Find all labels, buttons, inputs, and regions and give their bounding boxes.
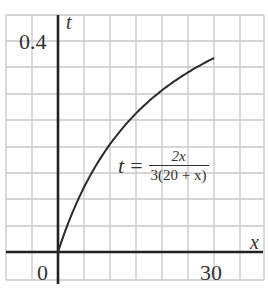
equation-fraction: 2x 3(20 + x) [149, 148, 209, 184]
equation-numerator: 2x [167, 148, 189, 165]
x-tick-label-30: 30 [200, 262, 222, 284]
y-tick-label: 0.4 [19, 31, 47, 53]
y-axis-label: t [66, 12, 72, 32]
x-axis-label: x [250, 232, 259, 252]
equation-lhs: t [118, 153, 124, 179]
equation-denominator: 3(20 + x) [149, 165, 209, 184]
curve-equation: t = 2x 3(20 + x) [118, 148, 209, 184]
x-tick-label-0: 0 [37, 262, 48, 284]
equation-equals: = [130, 153, 142, 179]
